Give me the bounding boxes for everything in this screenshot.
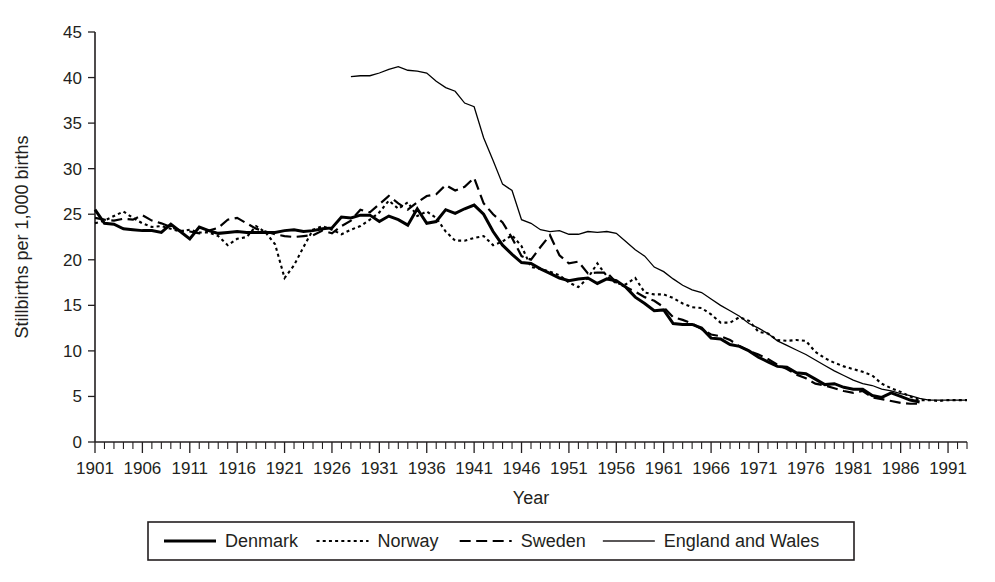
x-tick-label: 1966 — [692, 459, 730, 478]
legend-label-norway: Norway — [378, 531, 439, 551]
y-tick-label: 45 — [63, 23, 82, 42]
series-line-denmark — [95, 205, 920, 402]
x-tick-label: 1991 — [929, 459, 967, 478]
x-tick-label: 1951 — [550, 459, 588, 478]
y-axis: 051015202530354045 — [63, 23, 95, 452]
chart-canvas: 051015202530354045 190119061911191619211… — [0, 0, 995, 582]
x-axis-title: Year — [513, 488, 549, 508]
x-tick-label: 1906 — [123, 459, 161, 478]
x-tick-label: 1936 — [408, 459, 446, 478]
legend-label-england-and-wales: England and Wales — [664, 531, 819, 551]
x-tick-label: 1961 — [645, 459, 683, 478]
x-tick-label: 1971 — [740, 459, 778, 478]
y-tick-label: 40 — [63, 69, 82, 88]
x-tick-label: 1926 — [313, 459, 351, 478]
series-line-sweden — [95, 178, 920, 404]
y-tick-label: 30 — [63, 160, 82, 179]
x-tick-label: 1981 — [834, 459, 872, 478]
chart-legend: DenmarkNorwaySwedenEngland and Wales — [148, 522, 854, 560]
series-lines — [95, 67, 967, 404]
x-tick-label: 1986 — [882, 459, 920, 478]
x-tick-label: 1911 — [172, 459, 209, 478]
x-tick-label: 1956 — [597, 459, 635, 478]
series-line-england-and-wales — [351, 67, 967, 400]
y-tick-label: 5 — [73, 387, 82, 406]
y-tick-label: 35 — [63, 114, 82, 133]
x-tick-label: 1946 — [503, 459, 541, 478]
legend-label-denmark: Denmark — [225, 531, 299, 551]
y-tick-label: 25 — [63, 205, 82, 224]
y-tick-label: 10 — [63, 342, 82, 361]
stillbirths-line-chart: 051015202530354045 190119061911191619211… — [0, 0, 995, 582]
legend-label-sweden: Sweden — [521, 531, 586, 551]
y-tick-label: 15 — [63, 296, 82, 315]
x-tick-label: 1901 — [76, 459, 114, 478]
x-axis: 1901190619111916192119261931193619411946… — [76, 442, 967, 478]
x-tick-label: 1921 — [266, 459, 304, 478]
y-tick-label: 0 — [73, 433, 82, 452]
y-tick-label: 20 — [63, 251, 82, 270]
x-tick-label: 1941 — [455, 459, 493, 478]
axis-titles: YearStillbirths per 1,000 births — [12, 135, 549, 508]
x-tick-label: 1916 — [218, 459, 256, 478]
x-tick-label: 1931 — [360, 459, 398, 478]
y-axis-title: Stillbirths per 1,000 births — [12, 135, 32, 338]
x-tick-label: 1976 — [787, 459, 825, 478]
series-line-norway — [95, 201, 967, 401]
